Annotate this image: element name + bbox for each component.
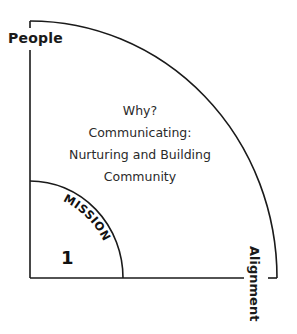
mission-label: MISSION (61, 191, 113, 243)
communicating-heading: Communicating: (60, 122, 220, 144)
people-axis-label: People (8, 30, 63, 46)
mission-number: 1 (61, 247, 74, 268)
nurturing-line: Nurturing and Building (60, 144, 220, 166)
community-line: Community (60, 166, 220, 188)
alignment-axis-label: Alignment (247, 246, 262, 321)
outer-region-text: Why? Communicating: Nurturing and Buildi… (60, 100, 220, 188)
why-question: Why? (60, 100, 220, 122)
quadrant-diagram: MISSION People Alignment Why? Communicat… (0, 0, 297, 334)
